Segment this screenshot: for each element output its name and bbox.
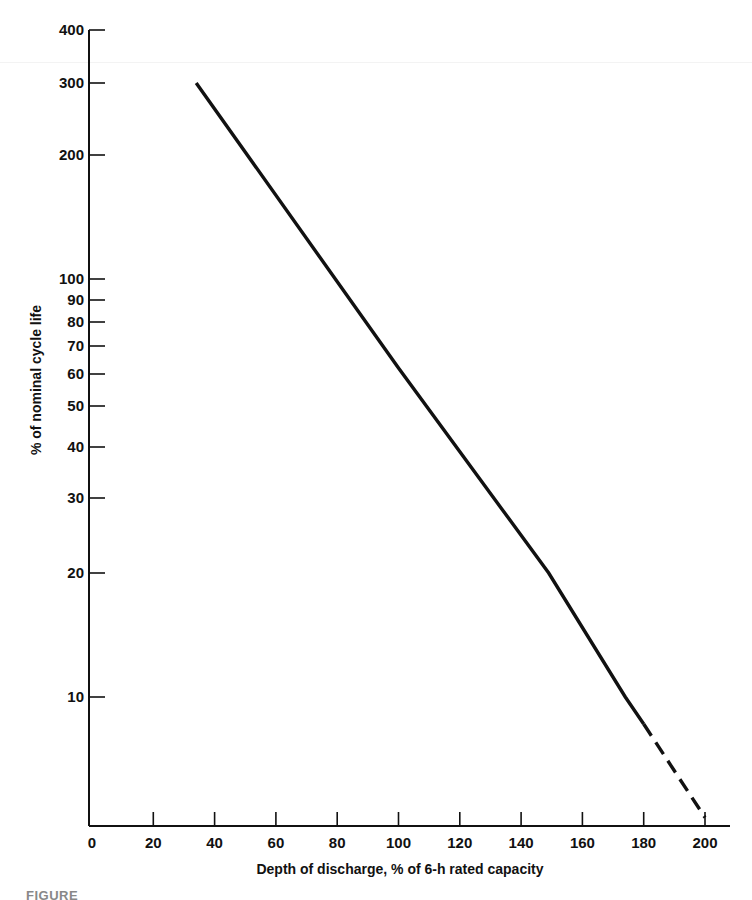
- y-tick-label: 200: [59, 146, 84, 163]
- y-tick-label: 40: [67, 438, 84, 455]
- x-tick-label: 100: [386, 834, 411, 851]
- x-tick-label: 0: [88, 834, 96, 851]
- y-tick-label: 90: [67, 291, 84, 308]
- y-tick-label: 80: [67, 313, 84, 330]
- figure-caption: FIGURE: [26, 888, 78, 900]
- x-tick-label: 60: [268, 834, 285, 851]
- y-tick-label: 60: [67, 365, 84, 382]
- extrapolated-line: [644, 724, 705, 818]
- cycle-life-chart: 020406080100120140160180200 102030405060…: [0, 0, 752, 900]
- x-ticks: 020406080100120140160180200: [88, 812, 718, 851]
- measured-line: [196, 83, 644, 724]
- y-ticks: 102030405060708090100200300400: [59, 21, 105, 705]
- y-tick-label: 10: [67, 688, 84, 705]
- x-tick-label: 200: [692, 834, 717, 851]
- y-tick-label: 100: [59, 270, 84, 287]
- x-tick-label: 20: [145, 834, 162, 851]
- x-tick-label: 120: [447, 834, 472, 851]
- x-tick-label: 160: [570, 834, 595, 851]
- y-tick-label: 70: [67, 337, 84, 354]
- y-tick-label: 400: [59, 21, 84, 38]
- y-tick-label: 20: [67, 564, 84, 581]
- x-tick-label: 80: [329, 834, 346, 851]
- y-tick-label: 30: [67, 489, 84, 506]
- x-tick-label: 40: [206, 834, 223, 851]
- data-series: [196, 83, 705, 818]
- y-tick-label: 300: [59, 74, 84, 91]
- x-tick-label: 180: [631, 834, 656, 851]
- y-tick-label: 50: [67, 397, 84, 414]
- y-axis-title: % of nominal cycle life: [28, 305, 44, 455]
- x-axis-title: Depth of discharge, % of 6-h rated capac…: [256, 861, 543, 877]
- x-tick-label: 140: [509, 834, 534, 851]
